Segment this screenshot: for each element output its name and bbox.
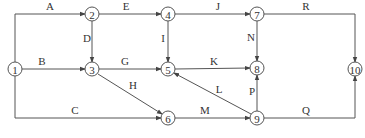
arrow-line (264, 14, 355, 62)
edge-j: J (175, 0, 250, 14)
edge-m: M (175, 104, 250, 118)
node-8: 8 (250, 61, 264, 75)
node-7: 7 (250, 7, 264, 21)
edge-e: E (99, 0, 161, 14)
node-label: 6 (165, 113, 171, 125)
edge-label: I (161, 32, 165, 44)
edge-p: P (249, 75, 257, 111)
edge-label: L (216, 83, 223, 95)
node-9: 9 (250, 111, 264, 125)
node-2: 2 (85, 7, 99, 21)
node-label: 5 (165, 64, 171, 76)
arrow-line (15, 14, 85, 62)
edge-d: D (83, 21, 92, 62)
edge-k: K (175, 55, 250, 69)
edge-l: L (174, 73, 251, 114)
arrow-line (15, 76, 161, 118)
edge-label: Q (302, 104, 310, 116)
edge-h: H (98, 74, 162, 114)
edge-label: D (83, 32, 91, 44)
edge-n: N (247, 21, 257, 61)
node-label: 3 (89, 64, 95, 76)
arrow-line (174, 73, 251, 114)
node-4: 4 (161, 7, 175, 21)
network-diagram: ABCDEGHIJKLMNPQR 12345678910 (0, 0, 365, 138)
node-label: 1 (12, 64, 18, 76)
edge-a: A (15, 0, 85, 62)
edge-g: G (99, 55, 161, 69)
node-label: 9 (254, 113, 260, 125)
node-label: 8 (254, 63, 260, 75)
edge-label: B (38, 55, 45, 67)
node-5: 5 (161, 62, 175, 76)
edge-label: H (129, 79, 137, 91)
edge-label: R (302, 0, 310, 12)
node-3: 3 (85, 62, 99, 76)
edge-label: N (247, 31, 255, 43)
edge-label: J (216, 0, 221, 12)
edge-r: R (264, 0, 355, 62)
edge-c: C (15, 76, 161, 118)
edge-label: M (200, 104, 210, 116)
edge-label: C (71, 104, 78, 116)
node-label: 7 (254, 9, 260, 21)
arrow-line (175, 68, 250, 69)
node-10: 10 (348, 62, 362, 76)
edges-layer: ABCDEGHIJKLMNPQR (15, 0, 355, 118)
diagram-canvas: ABCDEGHIJKLMNPQR 12345678910 (0, 0, 365, 138)
node-label: 4 (165, 9, 171, 21)
edge-b: B (22, 55, 85, 69)
edge-label: K (210, 55, 218, 67)
node-1: 1 (8, 62, 22, 76)
edge-q: Q (264, 76, 355, 118)
edge-label: E (123, 0, 130, 12)
edge-i: I (161, 21, 168, 62)
edge-label: P (249, 85, 255, 97)
node-label: 2 (89, 9, 95, 21)
node-6: 6 (161, 111, 175, 125)
edge-label: A (46, 0, 54, 12)
edge-label: G (121, 55, 129, 67)
node-label: 10 (350, 64, 362, 76)
